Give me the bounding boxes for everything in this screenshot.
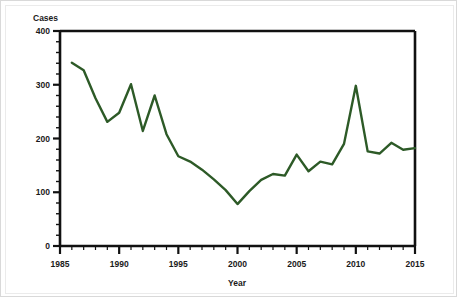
y-axis-title: Cases bbox=[33, 13, 58, 23]
x-tick-label: 1985 bbox=[51, 259, 70, 269]
x-tick-label: 1990 bbox=[110, 259, 129, 269]
y-axis-ticks bbox=[53, 31, 60, 246]
x-tick-label: 2010 bbox=[346, 259, 365, 269]
x-tick-label: 1995 bbox=[169, 259, 188, 269]
x-axis-tick-labels: 1985199019952000200520102015 bbox=[51, 259, 425, 269]
y-tick-label: 400 bbox=[36, 26, 50, 36]
y-axis-tick-labels: 0100200300400 bbox=[36, 26, 50, 251]
x-tick-label: 2000 bbox=[228, 259, 247, 269]
chart-figure: 0100200300400 19851990199520002005201020… bbox=[0, 0, 457, 297]
series-cases bbox=[72, 63, 415, 204]
y-tick-label: 100 bbox=[36, 187, 50, 197]
y-tick-label: 300 bbox=[36, 80, 50, 90]
line-chart: 0100200300400 19851990199520002005201020… bbox=[1, 1, 457, 297]
x-tick-label: 2015 bbox=[406, 259, 425, 269]
plot-frame bbox=[60, 31, 415, 246]
y-tick-label: 200 bbox=[36, 134, 50, 144]
x-tick-label: 2005 bbox=[287, 259, 306, 269]
y-tick-label: 0 bbox=[45, 241, 50, 251]
x-axis-title: Year bbox=[228, 278, 247, 288]
